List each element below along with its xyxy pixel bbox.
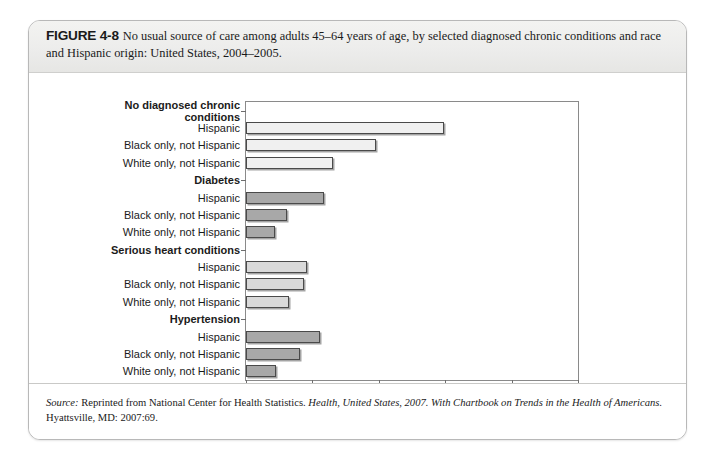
bar <box>246 278 304 290</box>
bar-label: White only, not Hispanic <box>123 157 240 169</box>
chart-bar-row: Hispanic <box>246 189 578 206</box>
bar <box>246 139 376 151</box>
bar-label: Black only, not Hispanic <box>124 348 240 360</box>
chart-bar-row: White only, not Hispanic <box>246 293 578 310</box>
group-label: Diabetes <box>194 174 240 186</box>
bar-label: White only, not Hispanic <box>123 365 240 377</box>
bar <box>246 122 444 134</box>
bar-label: Black only, not Hispanic <box>124 139 240 151</box>
chart-group-header: Serious heart conditions <box>246 241 578 258</box>
bar-label: White only, not Hispanic <box>123 226 240 238</box>
chart-bar-row: Hispanic <box>246 328 578 345</box>
chart-bar-row: White only, not Hispanic <box>246 363 578 380</box>
figure-title: FIGURE 4-8No usual source of care among … <box>46 28 672 61</box>
chart-bar-row: White only, not Hispanic <box>246 154 578 171</box>
source-part2: Hyattsville, MD: 2007:69. <box>46 412 158 423</box>
bar <box>246 157 333 169</box>
bar <box>246 331 320 343</box>
plot-area: No diagnosed chronic conditionsHispanicB… <box>245 101 579 381</box>
group-tick <box>241 319 246 320</box>
bar-label: Hispanic <box>198 261 240 273</box>
group-tick <box>241 111 246 112</box>
bar <box>246 296 289 308</box>
group-label: No diagnosed chronic conditions <box>90 98 240 123</box>
bar-rows: No diagnosed chronic conditionsHispanicB… <box>246 102 578 380</box>
bar <box>246 226 275 238</box>
source-part1: Reprinted from National Center for Healt… <box>79 397 309 408</box>
chart-group-header: Hypertension <box>246 311 578 328</box>
bar-label: Hispanic <box>198 331 240 343</box>
chart-bar-row: Black only, not Hispanic <box>246 276 578 293</box>
source-note: Source: Reprinted from National Center f… <box>46 396 671 425</box>
chart-bar-row: White only, not Hispanic <box>246 224 578 241</box>
figure-card: FIGURE 4-8No usual source of care among … <box>28 20 687 440</box>
bar-label: White only, not Hispanic <box>123 296 240 308</box>
chart-bar-row: Black only, not Hispanic <box>246 345 578 362</box>
chart-bar-row: Hispanic <box>246 258 578 275</box>
chart-bar-row: Black only, not Hispanic <box>246 137 578 154</box>
figure-number: FIGURE 4-8 <box>46 28 119 43</box>
bar-label: Black only, not Hispanic <box>124 278 240 290</box>
chart-group-header: Diabetes <box>246 172 578 189</box>
group-tick <box>241 180 246 181</box>
bar-label: Black only, not Hispanic <box>124 209 240 221</box>
bar-label: Hispanic <box>198 122 240 134</box>
group-label: Serious heart conditions <box>90 243 240 256</box>
figure-caption: No usual source of care among adults 45–… <box>46 29 661 60</box>
chart-bar-row: Hispanic <box>246 119 578 136</box>
source-publication: Health, United States, 2007. With Chartb… <box>308 397 662 408</box>
group-tick <box>241 250 246 251</box>
group-label: Hypertension <box>170 313 240 325</box>
source-band: Source: Reprinted from National Center f… <box>29 383 686 439</box>
source-lead: Source: <box>46 397 79 408</box>
bar <box>246 348 300 360</box>
bar <box>246 209 287 221</box>
bar-label: Hispanic <box>198 192 240 204</box>
chart-group-header: No diagnosed chronic conditions <box>246 102 578 119</box>
chart-body: No diagnosed chronic conditionsHispanicB… <box>29 73 686 403</box>
bar <box>246 192 324 204</box>
chart-bar-row: Black only, not Hispanic <box>246 206 578 223</box>
bar <box>246 365 276 377</box>
figure-title-band: FIGURE 4-8No usual source of care among … <box>29 21 686 73</box>
bar <box>246 261 307 273</box>
